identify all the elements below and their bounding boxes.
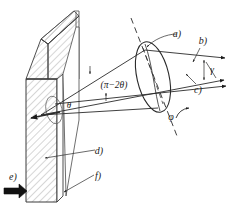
incident-beam-arrow <box>4 184 27 198</box>
phi-rotation-arrow <box>176 108 189 118</box>
label-c: c) <box>194 84 202 96</box>
diagram-canvas: a) b) c) γ φ θ (π−2θ) d) f) e) <box>0 0 230 212</box>
slab-shoulder-face <box>26 39 48 79</box>
slab-front-face <box>26 79 57 202</box>
leader-c <box>186 74 196 84</box>
label-e: e) <box>9 171 17 183</box>
lens-inner-curve <box>145 44 160 111</box>
label-b: b) <box>199 35 208 47</box>
label-d: d) <box>95 145 104 157</box>
label-theta: θ <box>67 100 72 110</box>
label-pi-minus-2theta: (π−2θ) <box>101 80 128 91</box>
label-gamma: γ <box>210 64 215 75</box>
label-a: a) <box>173 28 182 40</box>
optics-diagram: a) b) c) γ φ θ (π−2θ) d) f) e) <box>0 0 230 212</box>
label-phi: φ <box>168 111 174 122</box>
slab-right-edge <box>57 74 63 202</box>
deflected-ray-b <box>145 50 225 58</box>
bold-arrow-glyph <box>4 184 27 198</box>
lens <box>129 38 176 115</box>
label-f: f) <box>95 170 102 182</box>
